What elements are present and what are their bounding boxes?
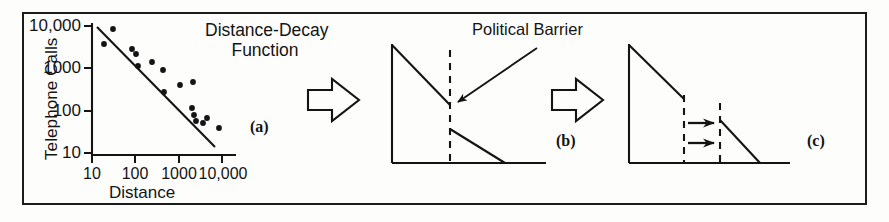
block-arrow-b-to-c [552,79,603,121]
panel-a-y-tick-100: 100 [0,101,81,121]
panel-a-y-tick-1000: 1000 [0,58,81,78]
distance-decay-caption-line2: Function [205,40,325,60]
panel-label-c: (c) [807,132,825,150]
panel-b-axes [392,44,546,163]
panel-b-barrier-annotation-arrow [458,48,537,102]
panel-b-decay-before-barrier [392,45,450,105]
panel-label-a: (a) [250,118,269,136]
panel-c-decay-after-zone [720,120,760,163]
panel-a-x-axis-title: Distance [109,183,175,203]
panel-a-y-tick-10000: 10,000 [0,16,81,36]
panel-a-x-tick-10000: 10,000 [196,165,250,183]
panel-a-x-tick-100: 100 [114,165,156,183]
panel-c-barrier-zone-diagram [629,44,790,163]
panel-c-decay-before-zone [629,45,684,99]
distance-decay-figure: Telephone Calls 10,000 1000 100 10 10 10… [0,0,889,222]
panel-a-y-tick-10: 10 [0,143,81,163]
panel-b-decay-after-barrier [450,129,505,163]
panel-a-trend-line [97,27,215,147]
panel-label-b: (b) [556,132,576,150]
political-barrier-label: Political Barrier [472,20,583,39]
panel-c-axes [629,44,790,163]
panel-a-data-points [101,26,222,131]
distance-decay-caption-line1: Distance-Decay [205,20,325,40]
panel-b-barrier-diagram [392,44,546,163]
panel-a-y-axis-title: Telephone Calls [42,38,62,160]
block-arrow-a-to-b [308,79,359,121]
panel-a-x-tick-10: 10 [73,165,111,183]
